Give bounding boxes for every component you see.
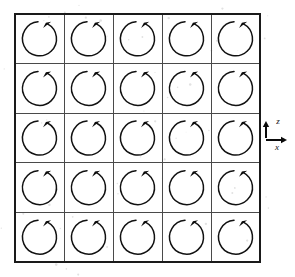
noise-speck bbox=[99, 19, 102, 22]
noise-speck bbox=[72, 216, 74, 218]
noise-speck bbox=[265, 196, 266, 197]
noise-speck bbox=[55, 263, 58, 266]
noise-speck bbox=[117, 183, 119, 185]
noise-speck bbox=[106, 246, 108, 248]
noise-speck bbox=[85, 17, 87, 19]
noise-speck bbox=[267, 15, 268, 16]
noise-speck bbox=[48, 204, 51, 207]
noise-speck bbox=[22, 213, 24, 215]
noise-speck bbox=[167, 97, 169, 99]
noise-speck bbox=[234, 187, 236, 189]
noise-speck bbox=[4, 68, 5, 69]
axis-label-z: z bbox=[275, 116, 280, 126]
spin-lattice-figure: zx bbox=[0, 0, 295, 277]
noise-speck bbox=[1, 228, 2, 229]
noise-speck bbox=[186, 132, 187, 133]
noise-speck bbox=[154, 120, 156, 122]
noise-speck bbox=[41, 122, 42, 123]
noise-speck bbox=[216, 40, 218, 42]
noise-speck bbox=[77, 274, 79, 276]
noise-speck bbox=[231, 192, 233, 194]
noise-speck bbox=[149, 252, 150, 253]
noise-speck bbox=[117, 193, 119, 195]
noise-speck bbox=[264, 37, 266, 39]
noise-speck bbox=[60, 228, 61, 229]
noise-speck bbox=[221, 7, 223, 9]
noise-speck bbox=[64, 12, 66, 14]
noise-speck bbox=[107, 36, 108, 37]
noise-speck bbox=[141, 36, 143, 38]
noise-speck bbox=[175, 138, 176, 139]
figure-background bbox=[0, 0, 295, 277]
noise-speck bbox=[78, 5, 79, 6]
noise-speck bbox=[177, 86, 179, 88]
noise-speck bbox=[208, 130, 210, 132]
noise-speck bbox=[46, 119, 47, 120]
noise-speck bbox=[268, 207, 270, 209]
noise-speck bbox=[189, 83, 192, 86]
noise-speck bbox=[128, 39, 130, 41]
figure-root: zx bbox=[0, 0, 295, 277]
noise-speck bbox=[205, 223, 207, 225]
noise-speck bbox=[164, 158, 166, 160]
axis-label-x: x bbox=[274, 142, 279, 152]
noise-speck bbox=[246, 239, 248, 241]
noise-speck bbox=[167, 17, 169, 19]
noise-speck bbox=[140, 156, 141, 157]
noise-speck bbox=[237, 50, 238, 51]
noise-speck bbox=[48, 16, 50, 18]
noise-speck bbox=[43, 20, 44, 21]
noise-speck bbox=[66, 268, 68, 270]
noise-speck bbox=[143, 111, 144, 112]
noise-speck bbox=[154, 72, 155, 73]
